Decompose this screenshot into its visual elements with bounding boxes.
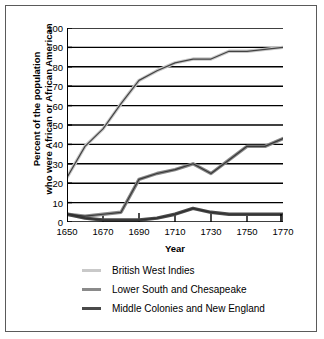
legend-swatch-british-west-indies [82, 269, 101, 272]
gridlines [67, 28, 283, 203]
legend-swatch-lower-south-and-chesapeake [82, 288, 101, 291]
legend-swatch-middle-colonies-and-new-england [82, 307, 101, 310]
y-tick-label: 100 [47, 23, 63, 34]
legend-item: Lower South and Chesapeake [6, 280, 318, 299]
y-tick-label: 60 [52, 100, 63, 111]
y-tick-label: 40 [52, 139, 63, 150]
legend-item: Middle Colonies and New England [6, 299, 318, 318]
y-tick-label: 90 [52, 42, 63, 53]
y-tick-label: 50 [52, 120, 63, 131]
x-tick-label: 1710 [164, 226, 185, 237]
series-lines [67, 47, 283, 220]
y-tick-label: 20 [52, 178, 63, 189]
y-tick-label: 70 [52, 81, 63, 92]
y-axis-title-line1: Percent of the population [31, 52, 44, 167]
legend-label-british-west-indies: British West Indies [112, 265, 195, 276]
x-tick-label: 1670 [92, 226, 113, 237]
y-tick-label: 10 [52, 197, 63, 208]
x-tick-label: 1770 [272, 226, 293, 237]
chart-legend: British West Indies Lower South and Ches… [6, 261, 318, 318]
x-tick-label: 1750 [236, 226, 257, 237]
x-tick-label: 1730 [200, 226, 221, 237]
x-axis-title: Year [67, 243, 283, 254]
legend-item: British West Indies [6, 261, 318, 280]
legend-label-lower-south-and-chesapeake: Lower South and Chesapeake [112, 284, 247, 295]
y-tick-label: 30 [52, 158, 63, 169]
line-chart: Percent of the population who were Afric… [6, 6, 318, 256]
x-tick-label: 1690 [128, 226, 149, 237]
x-tick-label: 1650 [56, 226, 77, 237]
legend-label-middle-colonies-and-new-england: Middle Colonies and New England [112, 303, 265, 314]
plot-svg [67, 28, 283, 222]
y-tick-label: 80 [52, 61, 63, 72]
plot-area: 0102030405060708090100 16501670169017101… [67, 28, 283, 222]
chart-card: Percent of the population who were Afric… [5, 5, 317, 332]
